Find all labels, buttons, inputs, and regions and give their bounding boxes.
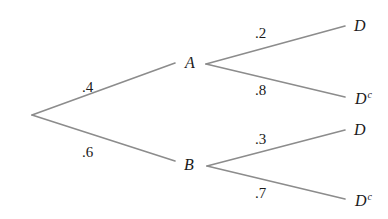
node-a-label: A <box>185 55 195 71</box>
branch-a-to-d <box>206 26 345 64</box>
branch-root-to-a <box>32 63 175 115</box>
node-a-dc-label: Dc <box>355 90 372 107</box>
prob-b-to-d: .3 <box>255 132 266 147</box>
node-a-dc-text: D <box>355 90 367 107</box>
node-b-d-label: D <box>354 122 366 138</box>
prob-a-to-d: .2 <box>255 26 266 41</box>
complement-superscript: c <box>368 89 372 100</box>
prob-root-to-b: .6 <box>82 145 93 160</box>
node-b-d-text: D <box>354 121 366 138</box>
node-b-dc-text: D <box>355 192 367 209</box>
prob-root-to-a: .4 <box>82 80 93 95</box>
node-b-label: B <box>184 157 194 173</box>
probability-tree-diagram: A B D Dc D Dc .4 .6 .2 .8 .3 .7 <box>0 0 388 219</box>
prob-b-to-dc: .7 <box>255 186 266 201</box>
branch-root-to-b <box>32 115 175 161</box>
branch-a-to-dc <box>206 64 345 97</box>
tree-branches <box>0 0 388 219</box>
prob-a-to-dc: .8 <box>255 83 266 98</box>
branch-b-to-d <box>207 130 345 166</box>
branch-b-to-dc <box>207 166 345 199</box>
complement-superscript: c <box>368 191 372 202</box>
node-a-d-label: D <box>354 18 366 34</box>
node-a-d-text: D <box>354 17 366 34</box>
node-b-dc-label: Dc <box>355 192 372 209</box>
